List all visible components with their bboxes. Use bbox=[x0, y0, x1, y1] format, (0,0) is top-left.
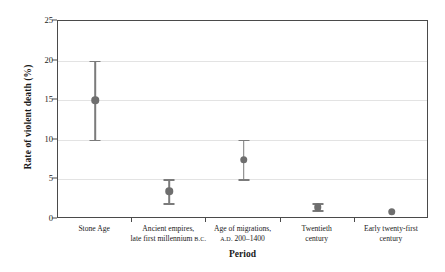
error-bar-cap-upper bbox=[238, 140, 249, 142]
x-axis-title: Period bbox=[57, 249, 428, 259]
error-bar-cap-lower bbox=[238, 179, 249, 181]
x-category-label-line2: century bbox=[345, 234, 437, 244]
x-tick-mark bbox=[205, 218, 206, 222]
y-tick-label: 10 bbox=[13, 134, 53, 144]
y-tick-label: 5 bbox=[13, 173, 53, 183]
y-axis-title: Rate of violent death (%) bbox=[23, 17, 33, 217]
error-bar-cap-upper bbox=[90, 61, 101, 63]
y-tick-label: 25 bbox=[13, 15, 53, 25]
x-tick-mark bbox=[354, 218, 355, 222]
x-category-label-line1: Twentieth bbox=[302, 224, 332, 233]
x-tick-mark bbox=[131, 218, 132, 222]
x-category-label-line1: Age of migrations, bbox=[214, 224, 271, 233]
x-category-label-line1: Stone Age bbox=[78, 224, 109, 233]
y-tick-label: 15 bbox=[13, 94, 53, 104]
x-category-label-line1: Early twenty-first bbox=[364, 224, 418, 233]
gridline bbox=[58, 100, 427, 101]
error-bar-cap-lower bbox=[90, 140, 101, 142]
x-tick-mark bbox=[280, 218, 281, 222]
gridline bbox=[58, 61, 427, 62]
y-tick-label: 20 bbox=[13, 55, 53, 65]
data-point bbox=[240, 156, 248, 164]
chart-figure: Rate of violent death (%) 0510152025 Sto… bbox=[0, 0, 445, 272]
x-category-label-line1: Ancient empires, bbox=[142, 224, 194, 233]
y-tick-label: 0 bbox=[13, 213, 53, 223]
error-bar-cap-lower bbox=[164, 203, 175, 205]
data-point bbox=[314, 203, 322, 211]
data-point bbox=[388, 208, 396, 216]
era-abbreviation: A.D. bbox=[220, 236, 232, 242]
error-bar-cap-upper bbox=[164, 179, 175, 181]
data-point bbox=[166, 188, 174, 196]
x-category-label: Early twenty-firstcentury bbox=[345, 224, 437, 243]
data-point bbox=[91, 96, 99, 104]
plot-area bbox=[57, 20, 428, 218]
